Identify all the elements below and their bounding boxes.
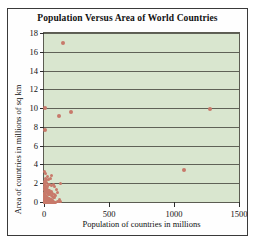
gridline-horizontal	[44, 71, 239, 72]
data-point	[61, 41, 65, 45]
x-axis-tick-label: 1000	[166, 209, 183, 219]
x-axis-tick-label: 1500	[231, 209, 248, 219]
data-point	[69, 110, 73, 114]
x-axis-title: Population of countries in millions	[43, 219, 240, 229]
gridline-horizontal	[44, 146, 239, 147]
data-point	[54, 194, 57, 197]
y-axis-tick-label: 8	[34, 122, 38, 132]
y-axis-tick-label: 0	[34, 197, 38, 207]
y-axis-title-wrap: Area of countries in millions of sq km	[14, 32, 26, 203]
y-axis-tick	[40, 52, 44, 53]
data-point	[208, 107, 212, 111]
data-point	[57, 114, 61, 118]
y-axis-tick-label: 2	[34, 178, 38, 188]
y-axis-tick	[40, 89, 44, 90]
data-point	[43, 106, 47, 110]
gridline-horizontal	[44, 89, 239, 90]
y-axis-tick	[40, 71, 44, 72]
y-axis-tick	[40, 146, 44, 147]
gridline-horizontal	[44, 183, 239, 184]
x-axis-tick-label: 0	[42, 209, 46, 219]
data-point	[43, 128, 47, 132]
x-axis-tick-label: 500	[103, 209, 116, 219]
data-point	[46, 185, 49, 188]
gridline-horizontal	[44, 164, 239, 165]
y-axis-tick-label: 12	[30, 84, 39, 94]
gridline-horizontal	[44, 127, 239, 128]
gridline-horizontal	[44, 52, 239, 53]
data-point	[59, 182, 62, 185]
y-axis-tick-label: 10	[30, 103, 39, 113]
data-point	[182, 168, 186, 172]
gridline-horizontal	[44, 33, 239, 34]
chart-title: Population Versus Area of World Countrie…	[8, 13, 247, 23]
plot-area: 024681012141618050010001500	[43, 32, 240, 203]
y-axis-tick-label: 16	[30, 47, 39, 57]
y-axis-tick-label: 6	[34, 141, 38, 151]
data-point	[59, 200, 62, 203]
x-axis-tick	[239, 202, 240, 207]
x-axis-tick	[174, 202, 175, 207]
y-axis-tick-label: 4	[34, 159, 38, 169]
x-axis-tick	[109, 202, 110, 207]
y-axis-tick-label: 14	[30, 66, 39, 76]
y-axis-tick	[40, 164, 44, 165]
y-axis-tick	[40, 33, 44, 34]
y-axis-tick-label: 18	[30, 28, 39, 38]
